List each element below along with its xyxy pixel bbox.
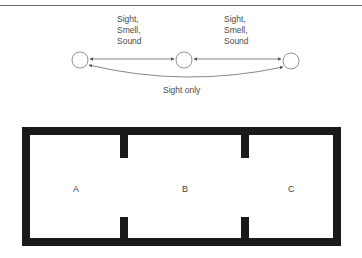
partition-bc-bottom — [241, 217, 249, 242]
room-b-label: B — [182, 184, 188, 194]
room-a-label: A — [73, 184, 79, 194]
floor-plan — [0, 0, 362, 258]
partition-ab-bottom — [120, 217, 128, 242]
partition-ab-top — [120, 131, 128, 158]
partition-bc-top — [241, 131, 249, 158]
room-c-label: C — [288, 184, 295, 194]
